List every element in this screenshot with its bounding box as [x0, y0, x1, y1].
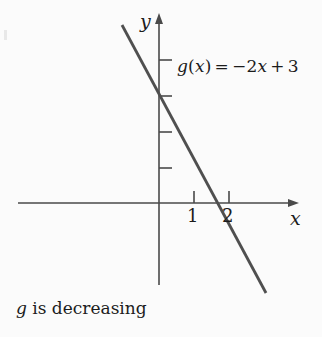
function-graph-figure: y x 1 2 g(x)=−2x+3 g is decreasing [0, 0, 322, 337]
x-axis-label: x [290, 209, 301, 228]
x-tick-label-2: 2 [222, 207, 233, 225]
equation-plus-sign: + [267, 56, 287, 76]
equation-annotation: g(x)=−2x+3 [177, 58, 299, 75]
equation-function-name: g [177, 56, 188, 76]
y-axis-label: y [140, 12, 151, 31]
equation-minus-sign: − [232, 56, 246, 76]
graph-canvas [0, 0, 322, 337]
equation-equals-sign: = [212, 56, 232, 76]
equation-paren-close: ) [205, 56, 212, 76]
equation-coefficient: 2 [246, 56, 257, 76]
equation-rhs-variable: x [258, 56, 268, 76]
equation-paren-open: ( [188, 56, 195, 76]
y-axis-arrowhead [155, 13, 163, 24]
figure-caption: g is decreasing [16, 300, 147, 317]
caption-text: is decreasing [27, 298, 147, 318]
equation-lhs-variable: x [195, 56, 205, 76]
x-tick-label-1: 1 [187, 207, 198, 225]
equation-constant: 3 [288, 56, 299, 76]
caption-subject: g [16, 298, 27, 318]
x-axis-arrowhead [288, 199, 299, 207]
